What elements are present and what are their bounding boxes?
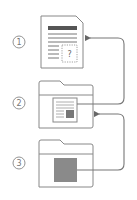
folder-icon-step-3 bbox=[39, 140, 93, 187]
step-2-badge: 2 bbox=[13, 97, 25, 109]
step-1-number: 1 bbox=[16, 38, 21, 47]
step-2-number: 2 bbox=[16, 99, 21, 108]
document-icon: ? bbox=[41, 16, 83, 68]
diagram-canvas: 1 2 3 ? bbox=[0, 0, 137, 200]
content-block bbox=[54, 158, 77, 182]
step-3-number: 3 bbox=[16, 159, 21, 168]
step-3-badge: 3 bbox=[13, 157, 25, 169]
question-mark-icon: ? bbox=[67, 50, 71, 59]
mini-document-icon bbox=[53, 98, 77, 122]
step-1-badge: 1 bbox=[13, 36, 25, 48]
document-header-bar bbox=[48, 26, 77, 30]
mini-block bbox=[66, 110, 74, 118]
